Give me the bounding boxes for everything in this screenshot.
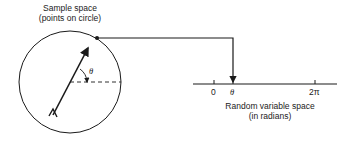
tick-label-theta: θ [230,87,234,97]
angle-arc [80,69,87,82]
angle-label: θ [89,66,93,76]
mapping-line [97,38,233,82]
random-variable-space-title: Random variable space (in radians) [205,101,335,121]
tick-label-two-pi: 2π [309,87,320,97]
direction-arrow [53,48,88,115]
tick-label-zero: 0 [211,87,216,97]
rv-space-title-line2: (in radians) [205,111,335,121]
rv-space-title-line1: Random variable space [205,101,335,111]
